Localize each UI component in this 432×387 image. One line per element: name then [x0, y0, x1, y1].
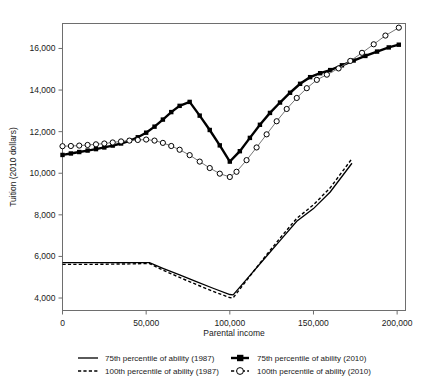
legend-label: 100th percentile of ability (1987) [105, 367, 219, 376]
y-tick-label: 8,000 [34, 210, 56, 220]
series-none [63, 159, 352, 298]
x-tick-label: 0 [60, 318, 65, 328]
series-layer [60, 25, 402, 298]
y-tick-label: 16,000 [30, 43, 56, 53]
y-tick-label: 4,000 [34, 293, 56, 303]
chart-canvas: 4,0006,0008,00010,00012,00014,00016,000 … [0, 0, 432, 387]
legend-item: 75th percentile of ability (1987) [78, 354, 215, 363]
x-tick-label: 50,000 [133, 318, 159, 328]
legend-item: 100th percentile of ability (1987) [78, 367, 219, 376]
legend-label: 100th percentile of ability (2010) [257, 367, 371, 376]
x-axis-ticks: 050,000100,000150,000200,000 [60, 311, 413, 328]
x-axis-title: Parental income [203, 328, 265, 338]
legend-item: 100th percentile of ability (2010) [231, 367, 371, 376]
y-axis-title: Tuition (2010 dollars) [8, 127, 18, 207]
legend-label: 75th percentile of ability (2010) [257, 354, 367, 363]
legend-item: 75th percentile of ability (2010) [231, 354, 367, 363]
x-tick-label: 100,000 [214, 318, 245, 328]
series-open-circle [60, 25, 402, 180]
y-tick-label: 6,000 [34, 251, 56, 261]
plot-area-frame [63, 24, 406, 311]
y-tick-label: 10,000 [30, 168, 56, 178]
legend-label: 75th percentile of ability (1987) [105, 354, 215, 363]
y-axis-ticks: 4,0006,0008,00010,00012,00014,00016,000 [30, 43, 63, 303]
tuition-by-parental-income-figure: 4,0006,0008,00010,00012,00014,00016,000 … [0, 0, 432, 387]
y-tick-label: 12,000 [30, 127, 56, 137]
x-tick-label: 150,000 [298, 318, 329, 328]
series-none [63, 163, 352, 295]
chart-legend: 75th percentile of ability (1987)75th pe… [78, 354, 371, 376]
x-tick-label: 200,000 [382, 318, 413, 328]
y-tick-label: 14,000 [30, 85, 56, 95]
